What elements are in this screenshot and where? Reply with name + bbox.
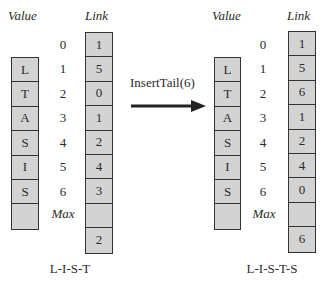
left-link-cell: 5 [86,57,112,81]
right-link-cell: 0 [289,178,315,202]
operation-label: InsertTail(6) [130,75,195,91]
index-label: 4 [248,135,278,151]
index-label: 2 [48,86,78,102]
index-label: 5 [48,159,78,175]
index-label: 5 [248,159,278,175]
left-link-column: 1 5 0 1 2 4 3 2 [85,32,113,254]
right-value-column: L T A S I S [214,57,241,230]
right-value-cell [215,204,240,228]
left-value-cell: S [12,180,38,204]
left-value-cell [12,204,38,228]
index-label-max: Max [48,206,78,222]
right-free-link-cell: 6 [289,227,315,251]
left-link-cell: 4 [86,155,112,179]
index-label-max: Max [249,206,279,222]
left-link-cell: 2 [86,131,112,155]
right-value-cell: S [215,180,240,204]
index-label: 3 [248,110,278,126]
right-caption: L-I-S-T-S [227,261,317,277]
right-link-cell [289,203,315,227]
index-label: 2 [248,86,278,102]
index-label: 1 [248,61,278,77]
left-value-cell: A [12,107,38,131]
right-link-header: Link [287,8,310,24]
left-value-column: L T A S I S [11,57,39,230]
left-value-cell: T [12,82,38,106]
left-link-cell: 1 [86,106,112,130]
index-label: 4 [48,135,78,151]
left-value-cell: S [12,131,38,155]
right-value-cell: S [215,131,240,155]
right-value-cell: T [215,82,240,106]
left-link-cell: 0 [86,82,112,106]
left-value-cell: L [12,58,38,82]
right-link-cell: 2 [289,130,315,154]
left-value-cell: I [12,156,38,180]
index-label: 0 [48,37,78,53]
left-link-cell [86,204,112,228]
right-value-cell: L [215,58,240,82]
right-arrow-icon [131,99,211,113]
left-caption: L-I-S-T [30,261,110,277]
right-link-cell: 6 [289,81,315,105]
index-label: 6 [248,184,278,200]
left-link-header: Link [85,8,108,24]
left-link-cell: 3 [86,179,112,203]
index-label: 3 [48,110,78,126]
right-link-column: 1 5 6 1 2 4 0 6 [288,31,316,253]
right-value-cell: I [215,156,240,180]
right-link-cell: 5 [289,56,315,80]
right-link-cell: 1 [289,105,315,129]
index-label: 6 [48,184,78,200]
index-label: 0 [248,37,278,53]
right-link-cell: 4 [289,154,315,178]
left-free-link-cell: 2 [86,228,112,252]
right-value-cell: A [215,107,240,131]
left-value-header: Value [8,8,37,24]
index-label: 1 [48,61,78,77]
left-link-cell: 1 [86,33,112,57]
right-link-cell: 1 [289,32,315,56]
right-value-header: Value [212,8,241,24]
